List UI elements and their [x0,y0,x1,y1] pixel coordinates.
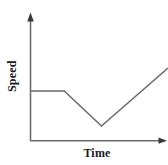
x-axis [30,138,167,144]
y-axis [27,13,34,142]
y-axis-arrow-icon [27,13,34,22]
chart-plot-area [0,0,168,165]
speed-time-chart-figure: Speed Time [0,0,168,165]
x-axis-label: Time [0,147,168,159]
y-axis-label: Speed [6,68,18,92]
speed-data-line [30,68,168,126]
x-axis-arrow-icon [159,138,168,144]
